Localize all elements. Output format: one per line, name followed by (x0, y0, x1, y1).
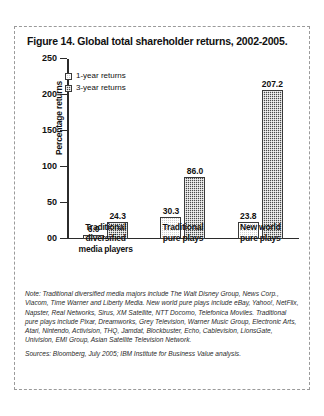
bars: 23.8207.2 (222, 59, 299, 239)
bar-group: 23.8207.2 (222, 59, 299, 239)
figure-title: Figure 14. Global total shareholder retu… (27, 35, 303, 47)
y-axis-tick-label: 250 (42, 53, 57, 63)
y-axis-tick: 250 (60, 58, 67, 60)
category-label-line: media players (67, 244, 144, 255)
bar-group: 30.386.0 (144, 59, 221, 239)
bar-value-label: 23.8 (240, 211, 257, 221)
note-text: Note: Traditional diversified media majo… (25, 289, 299, 345)
y-axis-title: Percentage returns (54, 70, 64, 166)
y-axis-tick: 100 (60, 166, 67, 168)
chart-legend: 1-year returns 3-year returns (65, 71, 126, 95)
figure-notes: Note: Traditional diversified media majo… (25, 289, 299, 358)
bar-value-label: 207.2 (262, 79, 283, 89)
bar-value-label: 24.3 (109, 211, 126, 221)
category-label-line: Traditional (144, 222, 221, 233)
x-axis-category-label: Traditionaldiversifiedmedia players (67, 221, 144, 261)
y-axis-tick: 00 (60, 238, 67, 240)
sources-text: Sources: Bloomberg, July 2005; IBM Insti… (25, 349, 299, 358)
y-axis-tick: 50 (60, 202, 67, 204)
y-axis-tick-label: 50 (47, 197, 57, 207)
y-axis-tick: 150 (60, 130, 67, 132)
y-axis-tick-label: 00 (47, 233, 57, 243)
category-label-line: diversified (67, 233, 144, 244)
legend-item-1-year: 1-year returns (65, 71, 126, 81)
figure-container: Figure 14. Global total shareholder retu… (14, 26, 310, 390)
legend-swatch-icon (65, 85, 72, 92)
bars: 30.386.0 (144, 59, 221, 239)
x-axis-category-labels: Traditionaldiversifiedmedia playersTradi… (67, 221, 299, 261)
bar[interactable]: 207.2 (262, 90, 283, 239)
bar-value-label: 30.3 (163, 206, 180, 216)
legend-swatch-icon (65, 73, 72, 80)
y-axis-tick-label: 150 (42, 125, 57, 135)
y-axis-tick-label: 100 (42, 161, 57, 171)
category-label-line: pure plays (144, 233, 221, 244)
chart-plot-area: Percentage returns 0050100150200250 6.02… (23, 55, 303, 261)
category-label-line: Traditional (67, 222, 144, 233)
x-axis-category-label: Traditionalpure plays (144, 221, 221, 261)
legend-label: 1-year returns (76, 71, 126, 81)
legend-item-3-year: 3-year returns (65, 83, 126, 93)
category-label-line: New world (222, 222, 299, 233)
category-label-line: pure plays (222, 233, 299, 244)
y-axis-tick-label: 200 (42, 89, 57, 99)
legend-label: 3-year returns (76, 83, 126, 93)
x-axis-category-label: New worldpure plays (222, 221, 299, 261)
bar-value-label: 86.0 (187, 166, 204, 176)
